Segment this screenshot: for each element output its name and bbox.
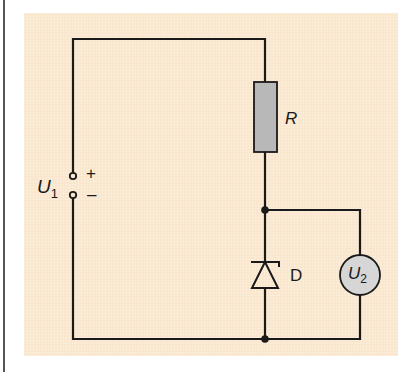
source-symbol: U	[37, 176, 51, 197]
source-subscript: 1	[51, 186, 58, 201]
zener-diode-symbol	[251, 262, 279, 290]
resistor-symbol	[254, 82, 277, 152]
source-label: U1	[37, 177, 58, 196]
minus-label: –	[87, 186, 96, 203]
diode-label: D	[290, 267, 302, 284]
voltmeter-label: U2	[348, 265, 367, 282]
wire-left-bottom	[73, 197, 360, 339]
junction-top	[261, 206, 269, 214]
plus-label: +	[86, 165, 96, 182]
voltmeter-symbol-text: U	[348, 264, 360, 283]
source-terminal-minus	[70, 192, 76, 198]
wire-right-branch	[265, 210, 360, 255]
voltmeter-subscript: 2	[360, 272, 367, 286]
source-terminal-plus	[70, 173, 76, 179]
circuit-schematic	[0, 0, 412, 372]
resistor-label: R	[285, 110, 297, 127]
junction-bottom	[261, 335, 269, 343]
wire-left-top	[73, 39, 265, 174]
